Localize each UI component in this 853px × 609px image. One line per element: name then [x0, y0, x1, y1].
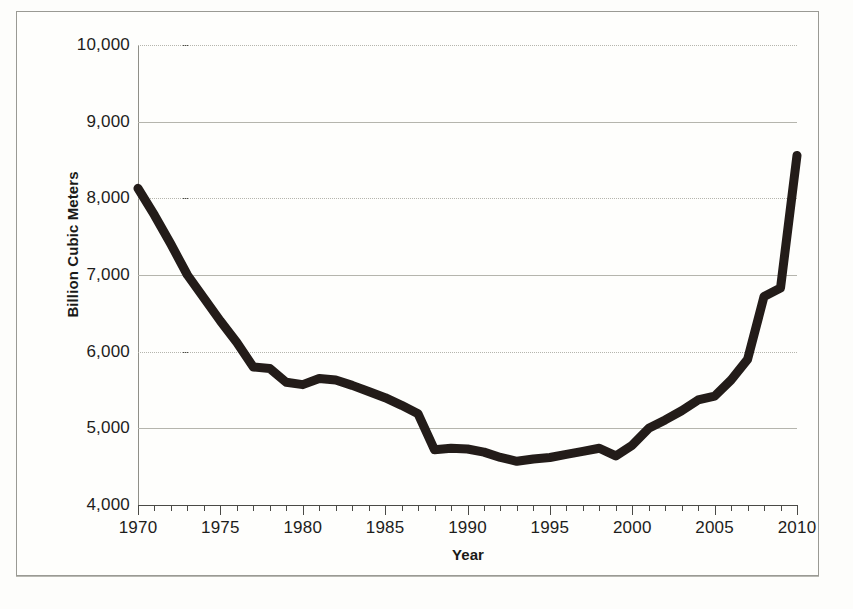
x-tick-major [468, 506, 469, 515]
x-axis-title: Year [138, 546, 798, 563]
x-tick-minor [402, 506, 403, 511]
x-tick-minor [253, 506, 254, 511]
x-tick-minor [369, 506, 370, 511]
x-tick-major [303, 506, 304, 515]
x-tick-major [715, 506, 716, 515]
x-tick-minor [599, 506, 600, 511]
x-tick-minor [270, 506, 271, 511]
x-tick-label: 2005 [695, 518, 734, 538]
x-tick-minor [435, 506, 436, 511]
x-tick-minor [583, 506, 584, 511]
chart-page: 10,0009,0008,0007,0006,0005,0004,000 197… [0, 0, 853, 609]
plot-area [138, 45, 797, 505]
x-tick-label: 2010 [778, 518, 817, 538]
x-tick-minor [517, 506, 518, 511]
x-tick-minor [336, 506, 337, 511]
x-tick-minor [237, 506, 238, 511]
x-tick-label: 1970 [119, 518, 158, 538]
x-tick-minor [764, 506, 765, 511]
x-tick-minor [352, 506, 353, 511]
x-tick-minor [731, 506, 732, 511]
x-tick-minor [566, 506, 567, 511]
series-polyline [138, 155, 797, 461]
x-tick-minor [500, 506, 501, 511]
x-tick-major [632, 506, 633, 515]
x-tick-minor [319, 506, 320, 511]
x-tick-minor [484, 506, 485, 511]
x-tick-minor [286, 506, 287, 511]
x-tick-label: 2000 [613, 518, 652, 538]
x-tick-minor [154, 506, 155, 511]
x-tick-minor [649, 506, 650, 511]
x-tick-minor [451, 506, 452, 511]
x-tick-minor [748, 506, 749, 511]
y-axis-title: Billion Cubic Meters [64, 115, 81, 375]
y-tick-label: 10,000 [58, 35, 130, 55]
y-tick-label: 5,000 [58, 418, 130, 438]
x-tick-minor [698, 506, 699, 511]
x-tick-minor [665, 506, 666, 511]
x-tick-minor [204, 506, 205, 511]
x-tick-label: 1975 [201, 518, 240, 538]
x-tick-label: 1995 [531, 518, 570, 538]
x-tick-major [138, 506, 139, 515]
x-tick-label: 1980 [283, 518, 322, 538]
x-tick-minor [171, 506, 172, 511]
x-tick-label: 1985 [366, 518, 405, 538]
x-tick-minor [616, 506, 617, 511]
x-tick-major [220, 506, 221, 515]
x-tick-minor [418, 506, 419, 511]
data-series-line [138, 45, 797, 505]
x-tick-major [550, 506, 551, 515]
x-tick-major [797, 506, 798, 515]
x-tick-minor [187, 506, 188, 511]
x-tick-minor [682, 506, 683, 511]
y-tick-label: 4,000 [58, 495, 130, 515]
x-tick-major [385, 506, 386, 515]
x-tick-label: 1990 [448, 518, 487, 538]
x-tick-minor [781, 506, 782, 511]
x-tick-minor [533, 506, 534, 511]
